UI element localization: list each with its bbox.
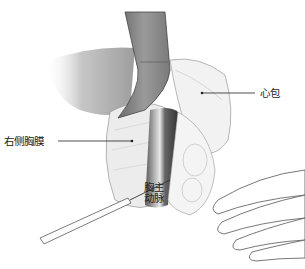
lung-retracted [45,48,135,115]
surgeon-hand [213,170,305,261]
label-thoracic-aorta: 胸主 动脉 [143,182,165,204]
label-aorta-line2: 动脉 [143,193,165,204]
illustration-canvas: 心包 右侧胸膜 胸主 动脉 [0,0,305,269]
label-pericardium: 心包 [260,88,280,99]
surgical-drawing [0,0,305,269]
label-right-pleura: 右侧胸膜 [4,136,44,147]
